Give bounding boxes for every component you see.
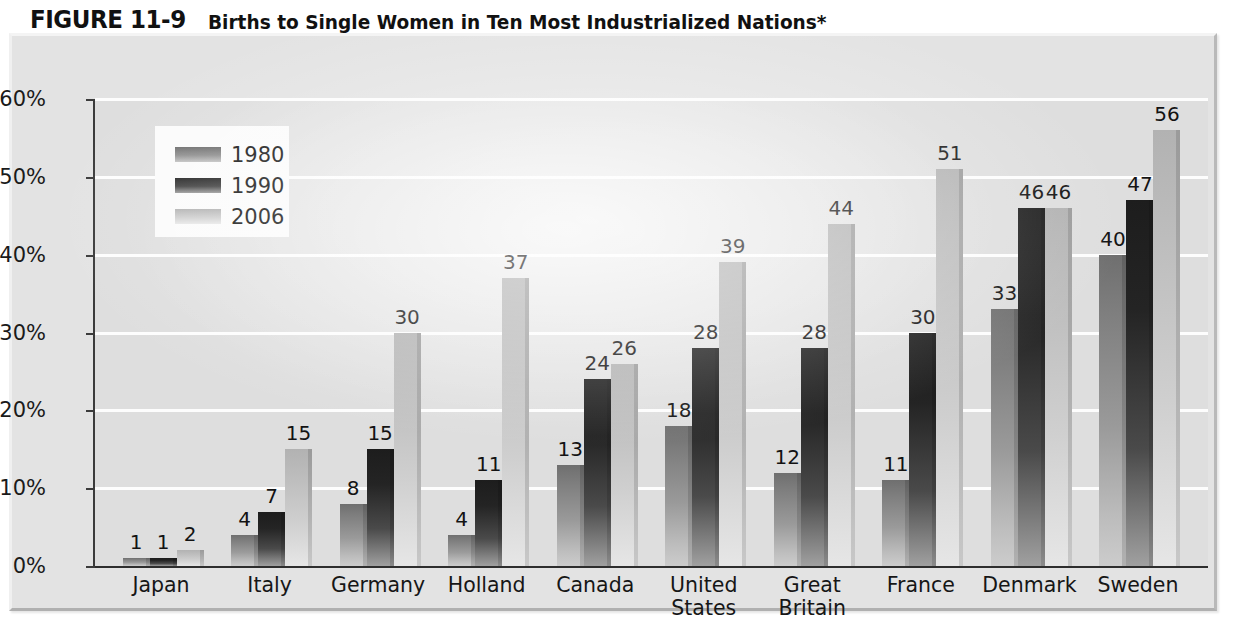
legend-swatch-1980	[175, 147, 221, 162]
bar: 8	[340, 504, 367, 566]
legend-label-2006: 2006	[231, 205, 284, 229]
y-axis-tick-label: 20%	[0, 398, 46, 422]
x-axis-category-label: United States	[670, 574, 737, 620]
bar-shadow	[417, 333, 421, 567]
bar-value-label: 30	[910, 305, 935, 329]
bar: 51	[936, 169, 963, 566]
y-axis-tick	[86, 410, 95, 412]
bar-value-label: 4	[238, 507, 251, 531]
y-axis-tick	[86, 177, 95, 179]
bar-group: 132426	[557, 99, 638, 566]
bar-value-label: 46	[1046, 180, 1071, 204]
x-axis-category-label: Denmark	[982, 574, 1076, 597]
bar: 28	[692, 348, 719, 566]
y-axis-tick	[86, 566, 95, 568]
x-axis-category-label: Germany	[331, 574, 425, 597]
x-axis-category-label: France	[887, 574, 955, 597]
bar-value-label: 37	[503, 250, 528, 274]
bar: 26	[611, 364, 638, 566]
bar-value-label: 11	[476, 452, 501, 476]
bar-value-label: 28	[802, 320, 827, 344]
y-axis-tick	[86, 99, 95, 101]
bar: 15	[285, 449, 312, 566]
bar-shadow	[959, 169, 963, 566]
bar-value-label: 30	[394, 305, 419, 329]
bar: 30	[909, 333, 936, 567]
bar: 33	[991, 309, 1018, 566]
x-axis-category-label: Canada	[556, 574, 634, 597]
bar: 28	[801, 348, 828, 566]
x-axis-category-label: Holland	[448, 574, 526, 597]
bar: 7	[258, 512, 285, 566]
bar: 46	[1018, 208, 1045, 566]
bar: 1	[123, 558, 150, 566]
bar-value-label: 56	[1154, 102, 1179, 126]
bar-group: 334646	[991, 99, 1072, 566]
bar-shadow	[525, 278, 529, 566]
bar-shadow	[851, 224, 855, 566]
bar-group: 113051	[882, 99, 963, 566]
bar: 30	[394, 333, 421, 567]
bar-value-label: 47	[1127, 172, 1152, 196]
bar-value-label: 44	[829, 196, 854, 220]
bar-value-label: 4	[455, 507, 468, 531]
bar-shadow	[742, 262, 746, 566]
bar-value-label: 28	[693, 320, 718, 344]
bar: 37	[502, 278, 529, 566]
bar-value-label: 24	[584, 351, 609, 375]
bar-value-label: 2	[184, 522, 197, 546]
y-axis-tick	[86, 488, 95, 490]
figure-caption: Births to Single Women in Ten Most Indus…	[208, 13, 827, 33]
bar: 12	[774, 473, 801, 566]
bar-shadow	[1068, 208, 1072, 566]
bar: 11	[475, 480, 502, 566]
y-axis-tick-label: 50%	[0, 165, 46, 189]
bar: 2	[177, 550, 204, 566]
y-axis-tick	[86, 333, 95, 335]
bar-group: 41137	[448, 99, 529, 566]
bar-value-label: 18	[666, 398, 691, 422]
bar-group: 182839	[665, 99, 746, 566]
bar-shadow	[308, 449, 312, 566]
figure-number: FIGURE 11-9	[30, 7, 186, 32]
figure-title: FIGURE 11-9 Births to Single Women in Te…	[30, 0, 859, 32]
bar-value-label: 1	[130, 530, 143, 554]
bar-group: 122844	[774, 99, 855, 566]
bar-value-label: 1	[157, 530, 170, 554]
x-axis-category-label: Italy	[247, 574, 291, 597]
legend-item-1980: 1980	[175, 139, 289, 170]
bar: 56	[1153, 130, 1180, 566]
bar: 13	[557, 465, 584, 566]
bar: 4	[448, 535, 475, 566]
bar-value-label: 13	[557, 437, 582, 461]
bar-value-label: 8	[347, 476, 360, 500]
legend-label-1980: 1980	[231, 143, 284, 167]
bar-value-label: 26	[611, 336, 636, 360]
legend-swatch-2006	[175, 209, 221, 224]
x-axis-category-label: Great Britain	[779, 574, 846, 620]
bar-shadow	[200, 550, 204, 566]
bar-value-label: 39	[720, 234, 745, 258]
bar-group: 81530	[340, 99, 421, 566]
bar-value-label: 51	[937, 141, 962, 165]
bar: 11	[882, 480, 909, 566]
chart-frame: 0%10%20%30%40%50%60%11247158153041137132…	[9, 33, 1217, 611]
bar: 24	[584, 379, 611, 566]
bar: 1	[150, 558, 177, 566]
bar: 15	[367, 449, 394, 566]
bar-shadow	[1176, 130, 1180, 566]
bar-value-label: 11	[883, 452, 908, 476]
y-axis-tick-label: 0%	[13, 554, 46, 578]
legend-label-1990: 1990	[231, 174, 284, 198]
y-axis-tick-label: 30%	[0, 321, 46, 345]
y-axis-tick-label: 40%	[0, 243, 46, 267]
legend-swatch-1990	[175, 178, 221, 193]
bar-value-label: 40	[1100, 227, 1125, 251]
y-axis-tick-label: 60%	[0, 87, 46, 111]
bar: 46	[1045, 208, 1072, 566]
legend-item-2006: 2006	[175, 201, 289, 232]
bar-shadow	[634, 364, 638, 566]
bar: 47	[1126, 200, 1153, 566]
bar: 18	[665, 426, 692, 566]
bar-group: 404756	[1099, 99, 1180, 566]
